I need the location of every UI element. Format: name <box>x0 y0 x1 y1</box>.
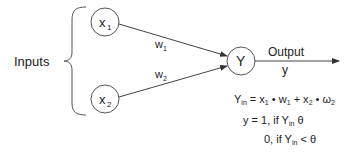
weight-w2: w 2 <box>154 68 167 82</box>
w2-label: w <box>154 68 163 80</box>
x2-subscript: 2 <box>107 100 112 109</box>
x1-label: x <box>99 15 106 30</box>
input-node-x2: x 2 <box>91 85 119 113</box>
input-node-x1: x 1 <box>91 8 119 36</box>
edge-x2-y <box>119 66 227 97</box>
w1-label: w <box>154 38 163 50</box>
svg-text:Yin = x1 • w1 + x2 • ω2: Yin = x1 • w1 + x2 • ω2 <box>234 93 335 106</box>
equation-activation-1: y = 1, if Yin θ <box>243 114 304 127</box>
inputs-label: Inputs <box>14 54 50 69</box>
x2-label: x <box>99 92 106 107</box>
output-node-y: Y <box>227 47 255 75</box>
perceptron-diagram: Inputs x 1 x 2 w 1 w 2 Y Output y Yin = … <box>0 0 355 154</box>
svg-text:y = 1, if Yin θ: y = 1, if Yin θ <box>243 114 304 127</box>
output-label: Output <box>268 45 305 59</box>
y-node-label: Y <box>236 53 246 69</box>
w2-subscript: 2 <box>163 75 167 82</box>
x1-subscript: 1 <box>107 23 112 32</box>
equation-yin: Yin = x1 • w1 + x2 • ω2 <box>234 93 335 106</box>
inputs-brace <box>64 7 86 115</box>
weight-w1: w 1 <box>154 38 167 52</box>
output-var: y <box>282 63 288 77</box>
equation-activation-0: 0, if Yin < θ <box>264 133 316 146</box>
edge-x1-y <box>119 24 227 56</box>
svg-text:0, if Yin < θ: 0, if Yin < θ <box>264 133 316 146</box>
w1-subscript: 1 <box>163 45 167 52</box>
